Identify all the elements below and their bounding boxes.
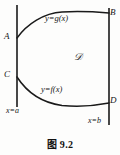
point-label-a: A <box>4 32 10 41</box>
region-label-d: 𝒟 <box>74 52 82 62</box>
figure-container: A B C D y=g(x) y=f(x) x=a x=b 𝒟 图 9.2 <box>0 0 120 155</box>
point-label-d: D <box>110 96 117 105</box>
upper-curve-label: y=g(x) <box>45 14 68 23</box>
figure-caption: 图 9.2 <box>0 136 120 151</box>
point-label-c: C <box>4 70 10 79</box>
axis-label-x-equals-b: x=b <box>88 117 101 125</box>
lower-curve-f-of-x <box>17 77 109 106</box>
axis-label-x-equals-a: x=a <box>6 107 19 115</box>
lower-curve-label: y=f(x) <box>41 85 62 94</box>
point-label-b: B <box>110 8 116 17</box>
